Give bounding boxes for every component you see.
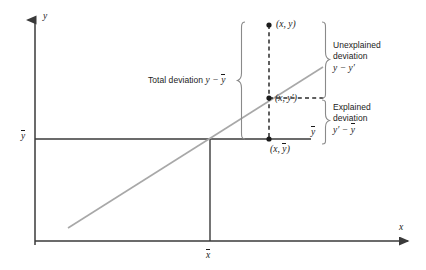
- total-deviation-formula-tail: y: [221, 75, 225, 85]
- point-label-observed: (x, y): [276, 18, 296, 30]
- x-mean-tick-label: x: [206, 249, 210, 261]
- overbar: [311, 126, 315, 127]
- explained-deviation-formula: y′ − y: [333, 124, 371, 136]
- explained-deviation-line1: Explained: [333, 102, 371, 113]
- unexplained-deviation-label: Unexplained deviation y − y′: [333, 40, 381, 74]
- total-deviation-formula-minus: −: [210, 75, 221, 85]
- explained-deviation-label: Explained deviation y′ − y: [333, 102, 371, 136]
- point-label-predicted: (x, y′): [275, 92, 297, 104]
- overbar: [282, 143, 286, 144]
- overbar: [21, 130, 25, 131]
- point-label-mean-var: y: [282, 144, 286, 154]
- explained-deviation-formula-minus: −: [339, 125, 350, 135]
- overbar: [206, 249, 210, 250]
- point-observed-marker: [266, 22, 271, 27]
- total-deviation-text: Total deviation: [148, 75, 203, 85]
- unexplained-deviation-formula-minus: −: [337, 63, 348, 73]
- explained-deviation-formula-tail: y: [351, 125, 355, 135]
- overbar: [351, 123, 355, 124]
- y-mean-tick-label: y: [21, 130, 25, 142]
- y-mean-right-label: y: [311, 126, 315, 138]
- point-mean-marker: [266, 136, 271, 141]
- unexplained-deviation-line2: deviation: [333, 51, 381, 62]
- unexplained-deviation-line1: Unexplained: [333, 40, 381, 51]
- unexplained-deviation-brace: [322, 22, 330, 98]
- point-label-mean-text: (x,: [270, 144, 282, 154]
- explained-deviation-brace: [322, 100, 330, 144]
- total-deviation-label: Total deviation y − y: [148, 74, 225, 86]
- regression-deviation-figure: y x y y x (x, y) (x, y′) (x, y) Total de…: [0, 0, 426, 270]
- total-deviation-brace: [238, 22, 246, 139]
- unexplained-deviation-formula: y − y′: [333, 62, 381, 74]
- point-predicted-marker: [266, 95, 271, 100]
- unexplained-deviation-formula-tail: y′: [349, 63, 355, 73]
- overbar: [221, 74, 225, 75]
- x-axis-label: x: [399, 221, 403, 233]
- point-label-mean-close: ): [287, 144, 290, 154]
- y-axis-label: y: [43, 10, 47, 22]
- explained-deviation-line2: deviation: [333, 113, 371, 124]
- point-label-mean: (x, y): [270, 143, 290, 155]
